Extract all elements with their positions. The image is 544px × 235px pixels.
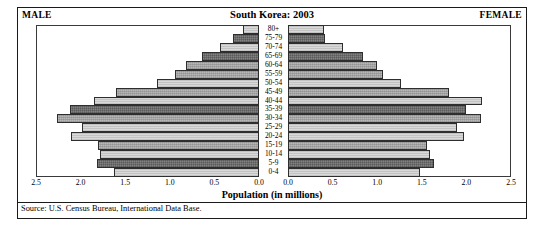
bar-male-50-54: [157, 79, 259, 88]
figure-frame: MALE South Korea: 2003 FEMALE 80+75-7970…: [17, 7, 527, 219]
age-label-0-4: 0-4: [259, 168, 288, 177]
age-group-row: 0-4: [259, 168, 288, 177]
bar-male-20-24: [71, 132, 259, 141]
bar-female-10-14: [288, 150, 430, 159]
bar-male-10-14: [100, 150, 259, 159]
bar-female-75-79: [288, 34, 325, 43]
tick-male-0.5: 0.5: [210, 178, 220, 187]
bar-male-55-59: [175, 70, 259, 79]
source-note: Source: U.S. Census Bureau, Internationa…: [21, 204, 201, 213]
bar-male-35-39: [70, 105, 259, 114]
source-divider: [18, 202, 526, 203]
bar-male-45-49: [116, 88, 259, 97]
bar-female-20-24: [288, 132, 464, 141]
tick-male-2.0: 2.0: [76, 178, 86, 187]
chart-title: South Korea: 2003: [18, 9, 526, 20]
bar-male-80+: [243, 25, 259, 34]
population-pyramid-figure: MALE South Korea: 2003 FEMALE 80+75-7970…: [0, 0, 544, 235]
bar-male-25-29: [82, 123, 260, 132]
bar-female-50-54: [288, 79, 401, 88]
bar-male-75-79: [233, 34, 259, 43]
bar-female-65-69: [288, 52, 363, 61]
bar-female-60-64: [288, 61, 377, 70]
bar-male-5-9: [97, 159, 259, 168]
bar-male-0-4: [114, 168, 259, 177]
bar-female-5-9: [288, 159, 434, 168]
bar-female-25-29: [288, 123, 457, 132]
bar-female-35-39: [288, 105, 466, 114]
bar-male-30-34: [57, 114, 259, 123]
bar-female-15-19: [288, 141, 427, 150]
tick-male-1.5: 1.5: [120, 178, 130, 187]
bar-female-30-34: [288, 114, 481, 123]
tick-female-0.0: 0.0: [283, 178, 293, 187]
tick-female-1.5: 1.5: [417, 178, 427, 187]
tick-female-0.5: 0.5: [328, 178, 338, 187]
plot-area: 80+75-7970-7465-6960-6455-5950-5445-4940…: [36, 25, 511, 177]
bar-male-60-64: [186, 61, 259, 70]
tick-female-2.0: 2.0: [462, 178, 472, 187]
bar-female-0-4: [288, 168, 420, 177]
x-axis-title: Population (in millions): [18, 189, 526, 200]
tick-male-0.0: 0.0: [254, 178, 264, 187]
bar-male-65-69: [202, 52, 259, 61]
bar-female-40-44: [288, 97, 482, 106]
bar-female-55-59: [288, 70, 383, 79]
tick-female-1.0: 1.0: [372, 178, 382, 187]
bar-male-40-44: [94, 97, 259, 106]
tick-female-2.5: 2.5: [506, 178, 516, 187]
tick-male-1.0: 1.0: [165, 178, 175, 187]
bar-female-45-49: [288, 88, 449, 97]
figure-header: MALE South Korea: 2003 FEMALE: [18, 8, 526, 25]
female-side-label: FEMALE: [480, 10, 522, 20]
bar-male-70-74: [220, 43, 259, 52]
tick-male-2.5: 2.5: [31, 178, 41, 187]
bar-female-70-74: [288, 43, 343, 52]
bar-female-80+: [288, 25, 324, 34]
bar-male-15-19: [98, 141, 259, 150]
